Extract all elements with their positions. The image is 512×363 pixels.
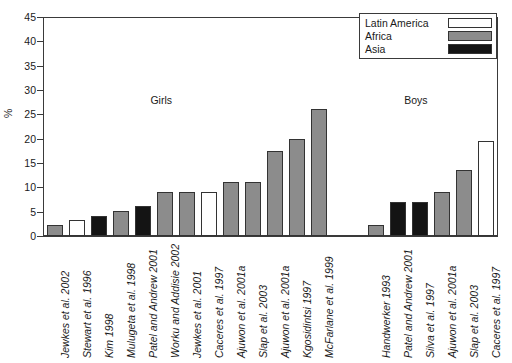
x-axis-tick-label: Silva et al. 1997 — [424, 283, 436, 358]
bar — [157, 192, 172, 236]
y-axis-tick — [37, 114, 43, 115]
bar — [245, 182, 260, 236]
x-axis-tick-label: Slap et al. 2003 — [468, 285, 480, 358]
x-axis-tick-label: Jewkes et al. 2001 — [191, 271, 203, 358]
bar — [113, 211, 128, 236]
chart-figure: % 051015202530354045 GirlsBoys Latin Ame… — [0, 0, 512, 363]
legend-item-swatch — [448, 44, 492, 54]
x-axis-tick-label: Slap et al. 2003 — [257, 285, 269, 358]
x-axis-tick-label: Kim 1998 — [103, 314, 115, 358]
x-axis-tick-label: Patel and Andrew 2001 — [147, 249, 159, 358]
x-axis-tick-label: Ajuwon et al. 2001a — [235, 266, 247, 358]
x-axis-tick-label: Handwerker 1993 — [380, 275, 392, 358]
y-axis-tick-value: 30 — [2, 85, 36, 95]
bar — [69, 220, 84, 236]
y-axis-tick-label: 45 — [0, 12, 36, 22]
y-axis-tick-label: 10 — [0, 182, 36, 192]
legend-item-label: Africa — [365, 31, 392, 42]
bar — [135, 206, 150, 236]
group-label-girls: Girls — [150, 94, 172, 106]
legend-item-swatch — [448, 31, 492, 41]
legend-item: Africa — [365, 30, 492, 42]
legend-item-swatch — [448, 18, 492, 28]
y-axis-tick — [37, 163, 43, 164]
y-axis-tick — [37, 17, 43, 18]
bar — [390, 202, 405, 236]
bar — [478, 141, 493, 236]
y-axis-tick — [37, 90, 43, 91]
y-axis-tick-label: 15 — [0, 158, 36, 168]
y-axis-tick — [37, 41, 43, 42]
y-axis-tick-label: 0 — [0, 231, 36, 241]
y-axis-tick — [37, 212, 43, 213]
y-axis-tick-value: 40 — [2, 36, 36, 46]
y-axis-tick-label: 20 — [0, 134, 36, 144]
y-axis-tick-value: 45 — [2, 12, 36, 22]
y-axis-tick-value: 15 — [2, 158, 36, 168]
x-axis-tick-label: Caceres et al. 1997 — [490, 267, 502, 358]
y-axis-tick — [37, 236, 43, 237]
bar — [47, 225, 62, 236]
legend-item: Asia — [365, 43, 492, 55]
x-axis-tick-label: Kgosidintsi 1997 — [301, 281, 313, 358]
bar — [201, 192, 216, 236]
legend-item: Latin America — [365, 17, 492, 29]
y-axis-tick-value: 10 — [2, 182, 36, 192]
bar — [289, 139, 304, 236]
x-axis-tick-label: Patel and Andrew 2001 — [402, 249, 414, 358]
group-label-boys: Boys — [404, 94, 427, 106]
bar — [412, 202, 427, 236]
bar — [311, 109, 326, 236]
legend-item-label: Latin America — [365, 18, 429, 29]
x-axis-tick-label: Stewart et al. 1996 — [81, 270, 93, 358]
y-axis-tick-value: 20 — [2, 134, 36, 144]
bar — [223, 182, 238, 236]
x-axis-line — [43, 236, 498, 237]
bar — [368, 225, 383, 236]
x-axis-tick-label: Ajuwon et al. 2001a — [279, 266, 291, 358]
bar — [434, 192, 449, 236]
bar — [267, 151, 282, 236]
y-axis-tick-label: 25 — [0, 109, 36, 119]
bar — [456, 170, 471, 236]
legend-item-label: Asia — [365, 44, 385, 55]
y-axis-tick — [37, 187, 43, 188]
y-axis-tick-value: 35 — [2, 61, 36, 71]
x-axis-tick-label: Worku and Addisie 2002 — [169, 244, 181, 358]
y-axis-tick — [37, 139, 43, 140]
x-axis-labels: Jewkes et al. 2002Stewart et al. 1996Kim… — [44, 238, 497, 363]
y-axis-tick-label: 40 — [0, 36, 36, 46]
x-axis-tick-label: McFarlane et al. 1999 — [323, 256, 335, 358]
x-axis-tick-label: Jewkes et al. 2002 — [59, 271, 71, 358]
y-axis-tick-label: 35 — [0, 61, 36, 71]
chart-legend: Latin AmericaAfricaAsia — [359, 13, 497, 59]
y-axis-tick-label: 5 — [0, 207, 36, 217]
y-axis-tick-value: 0 — [2, 231, 36, 241]
y-axis-tick-value: 25 — [2, 109, 36, 119]
x-axis-tick-label: Caceres et al. 1997 — [213, 267, 225, 358]
y-axis-tick-label: 30 — [0, 85, 36, 95]
x-axis-tick-label: Mulugeta et al. 1998 — [125, 263, 137, 358]
y-axis-tick — [37, 66, 43, 67]
x-axis-tick-label: Ajuwon et al. 2001a — [446, 266, 458, 358]
bar — [91, 216, 106, 236]
y-axis-tick-value: 5 — [2, 207, 36, 217]
bar — [179, 192, 194, 236]
